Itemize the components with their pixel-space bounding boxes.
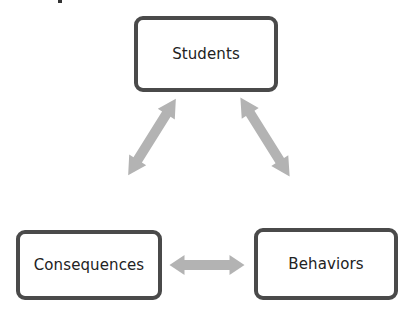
arrow-students-consequences [120,94,185,181]
node-behaviors: Behaviors [254,228,398,300]
arrow-consequences-behaviors [170,255,245,275]
node-label: Behaviors [288,255,363,273]
node-consequences: Consequences [16,230,162,300]
node-students: Students [134,16,278,92]
node-label: Consequences [34,256,144,274]
node-label: Students [172,45,240,63]
arrow-students-behaviors [232,92,298,181]
